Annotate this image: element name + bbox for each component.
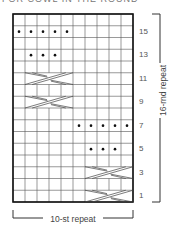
stitch-repeat-label: 10-st repeat [43,214,103,224]
knitting-chart [0,0,175,235]
row-number-label: 5 [139,144,143,153]
chart-symbols [18,30,133,202]
row-number-label: 1 [139,191,143,200]
row-number-label: 7 [139,121,143,130]
row-repeat-label: 16-rnd repeat [158,63,168,118]
row-number-label: 3 [139,168,143,177]
row-number-label: 13 [139,50,148,59]
row-number-label: 15 [139,27,148,36]
row-number-label: 9 [139,97,143,106]
row-number-label: 11 [139,74,147,83]
